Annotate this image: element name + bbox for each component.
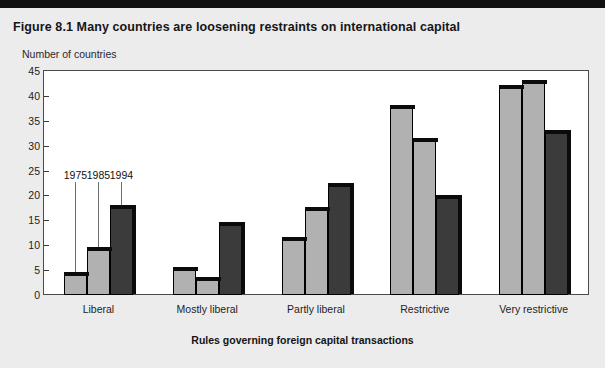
bar-1985: [305, 210, 328, 295]
y-tick-label: 35: [14, 115, 40, 127]
y-tick-mark: [44, 195, 49, 196]
bar-top-shadow: [87, 247, 112, 251]
x-category-label: Mostly liberal: [177, 303, 238, 315]
x-category-label: Very restrictive: [499, 303, 568, 315]
bar-top-shadow: [499, 85, 524, 89]
y-tick-label: 30: [14, 140, 40, 152]
bar-1975: [64, 275, 87, 295]
bar-1985: [196, 280, 219, 295]
bar-group: [173, 71, 242, 295]
bar-side-shadow: [567, 130, 571, 294]
y-tick-mark: [44, 270, 49, 271]
y-tick-label: 5: [14, 264, 40, 276]
bar-top-shadow: [390, 105, 415, 109]
y-axis-tick-labels: 051015202530354045: [8, 70, 40, 295]
plot-area: [44, 71, 588, 295]
bar-side-shadow: [350, 183, 354, 295]
x-category-label: Liberal: [83, 303, 115, 315]
bar-1994: [219, 225, 242, 295]
bar-group: [282, 71, 351, 295]
y-tick-mark: [44, 96, 49, 97]
bar-1975: [173, 270, 196, 295]
y-tick-mark: [44, 220, 49, 221]
bar-side-shadow: [132, 205, 136, 294]
bar-top-shadow: [522, 80, 547, 84]
y-tick-label: 25: [14, 165, 40, 177]
bar-top-shadow: [173, 267, 198, 271]
bar-group: [390, 71, 459, 295]
x-axis-title: Rules governing foreign capital transact…: [0, 334, 605, 346]
bar-1985: [522, 83, 545, 295]
y-tick-mark: [44, 245, 49, 246]
y-tick-mark: [44, 171, 49, 172]
y-tick-label: 45: [14, 65, 40, 77]
y-tick-mark: [44, 121, 49, 122]
y-tick-label: 0: [14, 289, 40, 301]
y-tick-label: 15: [14, 214, 40, 226]
y-tick-mark: [44, 146, 49, 147]
bar-1975: [282, 240, 305, 295]
bar-1994: [110, 208, 133, 295]
x-category-label: Partly liberal: [287, 303, 345, 315]
y-tick-label: 20: [14, 189, 40, 201]
y-tick-label: 40: [14, 90, 40, 102]
bar-top-shadow: [282, 237, 307, 241]
bar-group: [64, 71, 133, 295]
bar-1975: [390, 108, 413, 295]
y-tick-label: 10: [14, 239, 40, 251]
bar-1994: [328, 186, 351, 296]
bar-1994: [436, 198, 459, 295]
y-axis-title: Number of countries: [22, 48, 117, 60]
figure-container: Figure 8.1 Many countries are loosening …: [0, 0, 605, 368]
bar-top-shadow: [196, 277, 221, 281]
bar-top-shadow: [64, 272, 89, 276]
bar-group: [499, 71, 568, 295]
bar-side-shadow: [458, 195, 462, 294]
bar-1975: [499, 88, 522, 295]
x-axis-tick-labels: LiberalMostly liberalPartly liberalRestr…: [44, 303, 588, 319]
bar-1985: [413, 141, 436, 295]
bar-side-shadow: [241, 222, 245, 294]
figure-title: Figure 8.1 Many countries are loosening …: [13, 20, 460, 34]
bar-top-shadow: [305, 207, 330, 211]
bar-1994: [545, 133, 568, 295]
bar-1985: [87, 250, 110, 295]
x-category-label: Restrictive: [400, 303, 449, 315]
bar-top-shadow: [413, 138, 438, 142]
top-rule-divider: [0, 0, 605, 8]
